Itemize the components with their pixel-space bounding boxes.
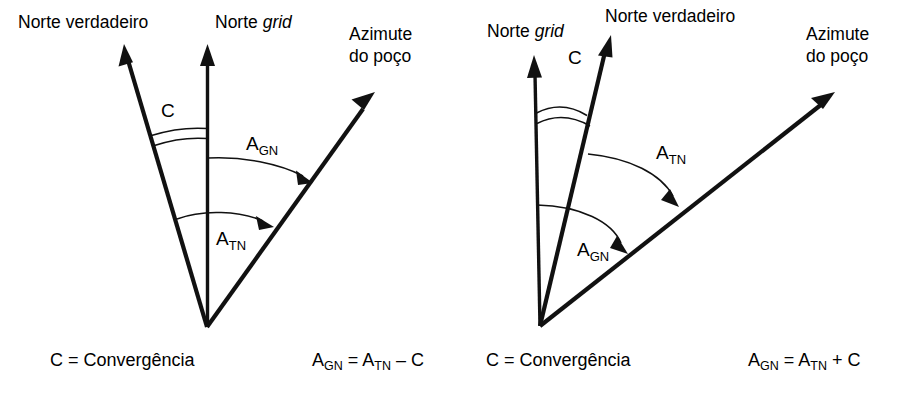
right-well-azimuth-ray xyxy=(540,92,835,326)
right-grid-north-label: Norte grid xyxy=(487,21,565,41)
left-true-azimuth-label: ATN xyxy=(216,228,246,253)
right-grid-azimuth-label: AGN xyxy=(577,239,609,264)
right-true-north-ray xyxy=(540,35,613,326)
diagram-canvas: Norte verdadeiro Norte grid Azimute do p… xyxy=(0,0,906,401)
left-true-north-label: Norte verdadeiro xyxy=(18,12,148,32)
left-grid-north-ray xyxy=(200,44,215,327)
left-well-azimuth-ray xyxy=(207,92,375,327)
left-true-north-ray xyxy=(119,44,208,327)
convergence-diagram-figure: Norte verdadeiro Norte grid Azimute do p… xyxy=(0,0,906,401)
right-well-azimuth-label-line1: Azimute xyxy=(806,24,869,44)
left-grid-azimuth-formula: AGN = ATN – C xyxy=(312,350,424,373)
right-convergence-definition: C = Convergência xyxy=(486,350,632,370)
left-convergence-double-arc xyxy=(152,128,208,145)
left-well-azimuth-label-line1: Azimute xyxy=(349,24,412,44)
right-convergence-double-arc xyxy=(537,107,591,126)
right-well-azimuth-label-line2: do poço xyxy=(806,46,868,66)
right-true-north-label: Norte verdadeiro xyxy=(605,6,735,26)
panel-right: Norte grid Norte verdadeiro Azimute do p… xyxy=(486,6,869,373)
right-true-azimuth-label: ATN xyxy=(656,142,686,167)
panel-left: Norte verdadeiro Norte grid Azimute do p… xyxy=(18,12,424,373)
right-grid-north-ray xyxy=(527,55,542,326)
left-grid-north-label: Norte grid xyxy=(215,12,293,32)
left-grid-azimuth-label: AGN xyxy=(246,133,278,158)
left-convergence-label: C xyxy=(161,100,175,121)
left-convergence-definition: C = Convergência xyxy=(50,350,196,370)
left-well-azimuth-label-line2: do poço xyxy=(349,46,411,66)
left-grid-azimuth-arc xyxy=(208,158,314,185)
right-grid-azimuth-formula: AGN = ATN + C xyxy=(748,350,861,373)
right-convergence-label: C xyxy=(568,47,582,68)
